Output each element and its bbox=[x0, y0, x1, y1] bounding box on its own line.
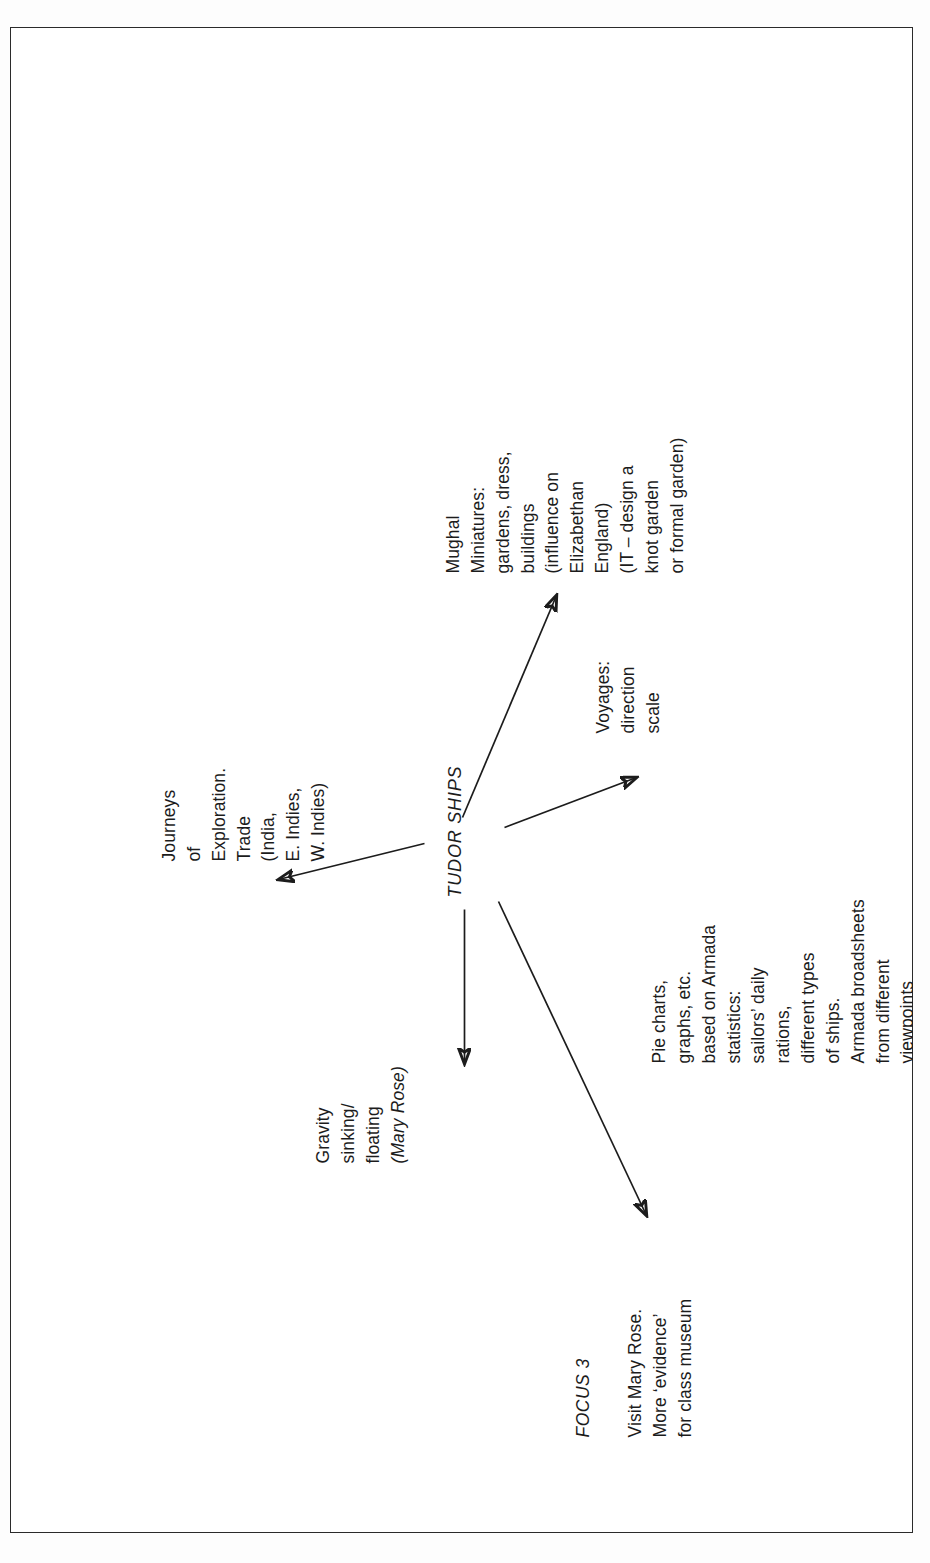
node-voyages-direction-scale: Voyages: direction scale bbox=[590, 660, 665, 733]
node-pie-charts-statistics: Pie charts, graphs, etc. based on Armada… bbox=[646, 899, 913, 1063]
focus-heading: FOCUS 3 bbox=[570, 1358, 595, 1437]
link-center-to-mughal bbox=[462, 595, 556, 817]
node-visit-mary-rose: Visit Mary Rose. More ‘evidence’ for cla… bbox=[622, 1298, 697, 1437]
node-mughal-miniatures: Mughal Miniatures: gardens, dress, build… bbox=[440, 437, 688, 573]
mindmap-stage: TUDOR SHIPS Journeys of Exploration. Tra… bbox=[10, 27, 913, 1533]
gravity-line-4-mary-rose: (Mary Rose) bbox=[387, 1066, 407, 1163]
link-center-to-pie bbox=[504, 777, 636, 827]
gravity-line-1: Gravity bbox=[312, 1107, 332, 1163]
link-center-to-focus bbox=[498, 901, 646, 1215]
node-journeys-of-exploration: Journeys of Exploration. Trade (India, E… bbox=[156, 767, 330, 861]
center-node-tudor-ships: TUDOR SHIPS bbox=[442, 765, 468, 897]
node-gravity-sinking-floating: Gravity sinking/ floating (Mary Rose) bbox=[310, 1066, 409, 1163]
gravity-line-2: sinking/ bbox=[337, 1103, 357, 1163]
mindmap-viewport: TUDOR SHIPS Journeys of Exploration. Tra… bbox=[10, 27, 913, 1533]
gravity-line-3: floating bbox=[362, 1106, 382, 1163]
page-canvas: TUDOR SHIPS Journeys of Exploration. Tra… bbox=[0, 0, 930, 1563]
